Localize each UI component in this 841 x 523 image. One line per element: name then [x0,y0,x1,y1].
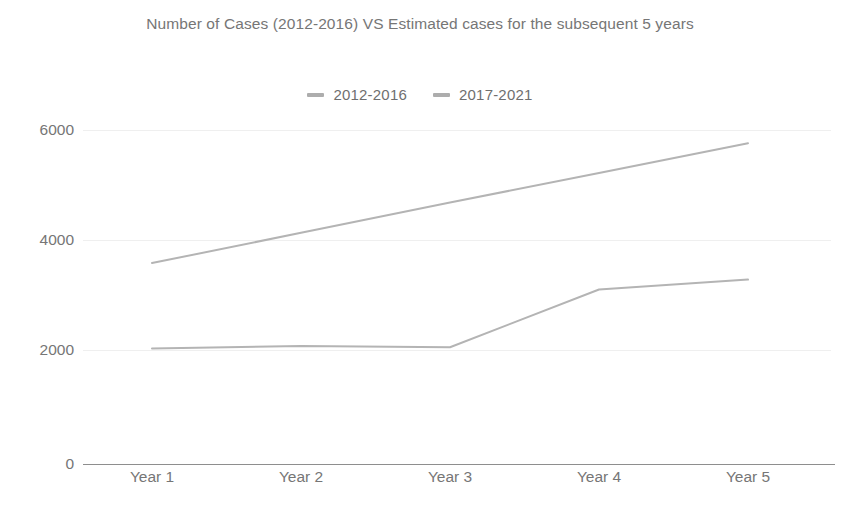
series-line-2017-2021 [152,280,748,349]
series-layer [0,0,841,523]
series-line-2012-2016 [152,143,748,263]
line-chart: Number of Cases (2012-2016) VS Estimated… [0,0,841,523]
plot-area: 6000 4000 2000 0 Year 1 Year 2 Year 3 Ye… [0,0,841,523]
